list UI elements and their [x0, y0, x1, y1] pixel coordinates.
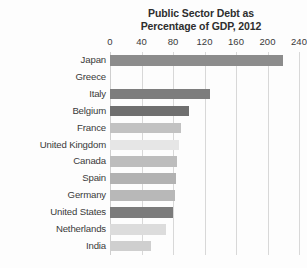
bar-row [110, 204, 299, 221]
x-tick-label: 160 [228, 36, 244, 47]
x-tick-label: 0 [107, 36, 112, 47]
category-label: Netherlands [0, 221, 106, 238]
category-label: France [0, 120, 106, 137]
category-label: India [0, 238, 106, 255]
bar-row [110, 170, 299, 187]
bar [110, 207, 173, 218]
x-axis-tick-labels: 04080120160200240 [110, 36, 299, 49]
bar-row [110, 120, 299, 137]
gridline [299, 52, 300, 255]
chart-title-line-2: Percentage of GDP, 2012 [100, 20, 302, 33]
bar-row [110, 103, 299, 120]
bar-row [110, 52, 299, 69]
x-tick-label: 240 [291, 36, 307, 47]
bar [110, 140, 179, 151]
category-label: Spain [0, 170, 106, 187]
bar [110, 89, 210, 100]
bar-row [110, 86, 299, 103]
category-label: Italy [0, 86, 106, 103]
x-tick-label: 120 [197, 36, 213, 47]
category-label: United States [0, 204, 106, 221]
chart-title-line-1: Public Sector Debt as [100, 7, 302, 20]
bar [110, 156, 177, 167]
chart-figure: Public Sector Debt as Percentage of GDP,… [0, 0, 307, 268]
bar [110, 190, 175, 201]
bar-row [110, 69, 299, 86]
plot-area [110, 52, 299, 255]
chart-title: Public Sector Debt as Percentage of GDP,… [100, 7, 302, 32]
bar [110, 123, 181, 134]
bar-row [110, 153, 299, 170]
bar [110, 224, 166, 235]
category-label: Canada [0, 153, 106, 170]
category-label: Japan [0, 52, 106, 69]
bar [110, 173, 176, 184]
bar [110, 55, 283, 66]
bar [110, 106, 189, 117]
category-label: Belgium [0, 103, 106, 120]
bar-row [110, 137, 299, 154]
category-label: Germany [0, 187, 106, 204]
y-axis-category-labels: JapanGreeceItalyBelgiumFranceUnited King… [0, 52, 106, 255]
bar [110, 241, 151, 252]
bar-row [110, 221, 299, 238]
bar-row [110, 187, 299, 204]
bar-rows [110, 52, 299, 255]
category-label: Greece [0, 69, 106, 86]
x-tick-label: 80 [168, 36, 179, 47]
x-tick-label: 200 [260, 36, 276, 47]
category-label: United Kingdom [0, 137, 106, 154]
bar-row [110, 238, 299, 255]
x-tick-label: 40 [136, 36, 147, 47]
